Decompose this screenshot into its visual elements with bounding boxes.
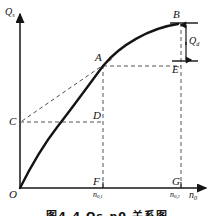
figure-container: Qs n0 O A B C D E F G Qd n0,1 n0,2 图4-4 …	[0, 0, 214, 216]
y-axis-label-sub: s	[12, 11, 14, 18]
point-label-g: G	[172, 176, 180, 187]
point-label-f: F	[93, 176, 100, 187]
qd-label: Qd	[189, 36, 199, 46]
x-tick-n02-sub: 0,2	[174, 194, 180, 199]
x-tick-label-n02: n0,2	[170, 191, 180, 199]
point-label-b: B	[173, 9, 180, 20]
qd-label-sub: d	[196, 40, 199, 47]
point-label-e: E	[172, 64, 179, 75]
x-axis-label: n0	[189, 190, 197, 200]
y-axis-label: Qs	[5, 7, 14, 17]
qs-curve	[20, 24, 178, 188]
x-tick-n01-sub: 0,1	[97, 194, 103, 199]
figure-caption: 图4-4 Qs-n0 关系图	[0, 207, 214, 216]
qs-n0-plot	[0, 0, 214, 216]
x-tick-label-n01: n0,1	[93, 191, 103, 199]
point-label-o: O	[9, 189, 17, 200]
x-axis-label-sub: 0	[194, 194, 197, 201]
point-label-c: C	[9, 116, 16, 127]
point-label-d: D	[93, 110, 101, 121]
point-label-a: A	[95, 52, 102, 63]
